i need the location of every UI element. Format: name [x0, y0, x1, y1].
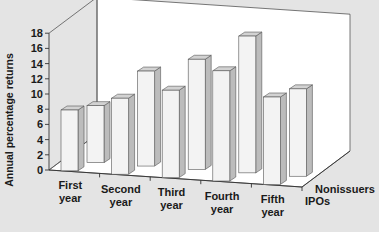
y-tick-label: 18	[31, 27, 43, 39]
y-tick-label: 16	[31, 42, 43, 54]
x-category-label: Fifthyear	[261, 193, 285, 218]
bar-ipos-5	[263, 93, 286, 184]
y-tick-label: 14	[31, 58, 44, 70]
y-tick-label: 12	[31, 73, 43, 85]
y-axis-title: Annual percentage returns	[3, 53, 15, 187]
y-tick-label: 10	[31, 88, 43, 100]
x-category-label: Secondyear	[101, 183, 141, 208]
bar-nonissuers-3	[188, 55, 211, 169]
y-tick-label: 2	[37, 149, 43, 161]
y-tick-label: 0	[37, 164, 43, 176]
x-category-label: Fourthyear	[205, 190, 240, 215]
y-tick-label: 6	[37, 118, 43, 130]
ipo-returns-chart: 024681012141618 FirstyearSecondyearThird…	[0, 0, 379, 232]
bar-ipos-2	[112, 94, 135, 174]
bar-nonissuers-2	[138, 67, 161, 166]
bar-ipos-1	[61, 106, 84, 171]
y-tick-label: 4	[37, 134, 44, 146]
x-category-label: Firstyear	[58, 179, 82, 204]
bar-nonissuers-4	[239, 32, 262, 173]
bar-nonissuers-1	[87, 102, 110, 163]
series-label-nonissuers: Nonissuers	[315, 183, 375, 195]
series-label-ipos: IPOs	[305, 195, 330, 207]
y-tick-label: 8	[37, 103, 43, 115]
bar-ipos-3	[162, 86, 185, 177]
series-labels: IPOsNonissuers	[305, 183, 375, 207]
bar-ipos-4	[213, 67, 236, 181]
x-category-label: Thirdyear	[158, 186, 186, 211]
bar-nonissuers-5	[289, 85, 312, 176]
